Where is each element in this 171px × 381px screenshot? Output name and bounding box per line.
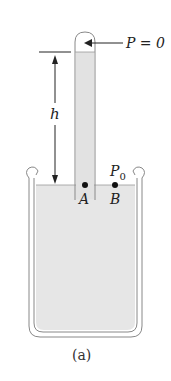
point-a-dot (82, 182, 88, 188)
height-arrow-up-icon (52, 55, 58, 64)
pressure-top-label: P = 0 (125, 35, 165, 51)
point-b-dot (112, 182, 118, 188)
height-label: h (50, 105, 60, 123)
atm-pressure-label: P0 (109, 163, 126, 182)
beaker-rim-right (133, 167, 145, 178)
barometer-tube (75, 32, 95, 200)
height-arrow-down-icon (52, 175, 58, 184)
figure-caption: (a) (72, 347, 91, 363)
beaker-rim-left (27, 167, 39, 178)
barometer-diagram: P = 0 h A B P0 (a) (0, 0, 171, 381)
point-a-label: A (77, 191, 89, 207)
point-b-label: B (109, 191, 120, 207)
